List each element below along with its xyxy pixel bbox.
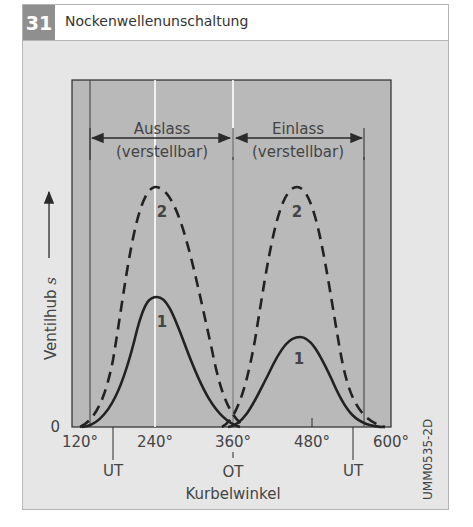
x-tick-120: 120° [62, 433, 98, 451]
exhaust-label: Auslass [134, 120, 191, 138]
y-axis-label: Ventilhub s [42, 277, 60, 360]
curve1-label-intake: 1 [294, 350, 304, 368]
intake-sub-label: (verstellbar) [252, 143, 344, 161]
chart: Auslass (verstellbar) Einlass (verstellb… [0, 0, 473, 527]
x-tick-360: 360° [215, 433, 251, 451]
y-zero-label: 0 [50, 418, 60, 436]
curve2-label-exhaust: 2 [157, 203, 167, 221]
x-axis-label: Kurbelwinkel [185, 485, 280, 503]
curve1-label-exhaust: 1 [157, 313, 167, 331]
ot-label: OT [223, 463, 245, 481]
intake-label: Einlass [272, 120, 324, 138]
x-tick-480: 480° [294, 433, 330, 451]
figure-code: UMM0535-2D [421, 419, 435, 500]
ut-right-label: UT [343, 462, 364, 480]
plot-area [72, 80, 391, 427]
x-tick-600: 600° [373, 433, 409, 451]
ut-left-label: UT [103, 462, 124, 480]
x-tick-240: 240° [137, 433, 173, 451]
curve2-label-intake: 2 [292, 203, 302, 221]
exhaust-sub-label: (verstellbar) [116, 143, 208, 161]
